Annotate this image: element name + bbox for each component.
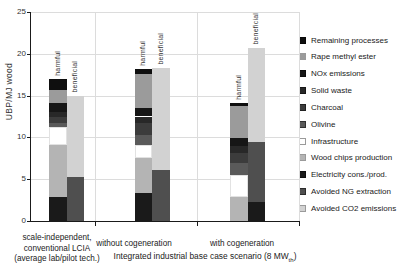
legend-label: Charcoal [311, 102, 343, 113]
x-axis [30, 221, 300, 222]
bar-segment-remaining-processes [230, 103, 248, 106]
legend-label: Infrastructure [311, 136, 358, 147]
legend-swatch [299, 37, 306, 44]
legend-label: Avoided NG extraction [311, 186, 391, 197]
bar-segment-rape-methyl-ester [135, 74, 153, 108]
bar-orientation-label: harmful [234, 75, 243, 100]
legend-label: Solid waste [311, 85, 352, 96]
legend-swatch [299, 104, 306, 111]
group-label-line: with cogeneration [172, 239, 312, 250]
x-axis-tick [299, 222, 300, 226]
group-label-line: (average lab/pilot tech.) [0, 254, 127, 265]
bar-segment-rape-methyl-ester [49, 90, 67, 103]
v-gridline [299, 12, 300, 221]
legend-label: Rape methyl ester [311, 51, 376, 62]
group-label: with cogeneration [172, 239, 312, 250]
bar-orientation-label: beneficial [251, 13, 260, 45]
bar-segment-wood-chips-production [135, 158, 153, 193]
bar-orientation-label: beneficial [156, 33, 165, 65]
bar-segment-solid-waste [49, 112, 67, 117]
bar-segment-solid-waste [230, 146, 248, 154]
y-axis-tick [27, 221, 30, 222]
legend-label: NOx emissions [311, 68, 365, 79]
y-tick-label: 25 [6, 8, 26, 16]
bar-segment-nox-emissions [49, 103, 67, 112]
bar-segment-wood-chips-production [49, 145, 67, 197]
y-axis-tick [27, 12, 30, 13]
bar-segment-olivine [135, 135, 153, 145]
legend-swatch [299, 171, 306, 178]
bar-segment-remaining-processes [49, 79, 67, 90]
legend-swatch [299, 70, 306, 77]
bar-segment-electricity-cons-prod- [248, 202, 266, 221]
legend-label: Avoided CO2 emissions [311, 203, 396, 214]
bar-segment-infrastructure [135, 145, 153, 158]
y-axis-tick [27, 179, 30, 180]
legend-swatch [299, 154, 306, 161]
bar-orientation-label: harmful [138, 41, 147, 66]
y-axis-tick [27, 137, 30, 138]
y-tick-label: 20 [6, 50, 26, 58]
bar-segment-avoided-ng-extraction [67, 177, 85, 221]
bar-segment-charcoal [230, 153, 248, 163]
bar-segment-infrastructure [49, 127, 67, 145]
legend-swatch [299, 87, 306, 94]
bar-segment-rape-methyl-ester [230, 106, 248, 138]
bar-segment-olivine [230, 163, 248, 175]
legend-label: Olivine [311, 119, 335, 130]
bar-segment-avoided-ng-extraction [152, 170, 170, 221]
legend-swatch [299, 138, 306, 145]
bar-segment-nox-emissions [230, 138, 248, 146]
stacked-bar-chart-figure: UBP/MJ wood Integrated industrial base c… [0, 0, 413, 275]
bar-orientation-label: beneficial [70, 61, 79, 93]
y-tick-label: 10 [6, 133, 26, 141]
v-gridline [197, 12, 198, 221]
bar-segment-electricity-cons-prod- [49, 197, 67, 221]
bar-segment-avoided-co2-emissions [67, 96, 85, 177]
legend-swatch [299, 205, 306, 212]
x-axis-tick [95, 222, 96, 226]
legend-label: Remaining processes [311, 35, 388, 46]
bar-segment-solid-waste [135, 117, 153, 124]
y-tick-label: 15 [6, 92, 26, 100]
bar-segment-olivine [49, 123, 67, 126]
bar-segment-remaining-processes [135, 69, 153, 74]
bar-segment-avoided-ng-extraction [248, 142, 266, 202]
y-axis [30, 12, 31, 222]
bar-segment-charcoal [135, 123, 153, 135]
bar-segment-nox-emissions [135, 108, 153, 116]
x-axis-tick [197, 222, 198, 226]
legend-swatch [299, 53, 306, 60]
bar-segment-avoided-co2-emissions [152, 68, 170, 170]
v-gridline [95, 12, 96, 221]
bar-segment-electricity-cons-prod- [135, 193, 153, 221]
y-axis-tick [27, 54, 30, 55]
legend-swatch [299, 188, 306, 195]
bar-segment-wood-chips-production [230, 197, 248, 221]
y-tick-label: 5 [6, 175, 26, 183]
bar-segment-avoided-co2-emissions [248, 48, 266, 142]
y-tick-label: 0 [6, 217, 26, 225]
legend-label: Electricity cons./prod. [311, 169, 387, 180]
bar-segment-infrastructure [230, 175, 248, 197]
y-axis-tick [27, 96, 30, 97]
bar-segment-charcoal [49, 117, 67, 123]
bar-orientation-label: harmful [53, 51, 62, 76]
legend-swatch [299, 121, 306, 128]
legend-label: Wood chips production [311, 152, 392, 163]
